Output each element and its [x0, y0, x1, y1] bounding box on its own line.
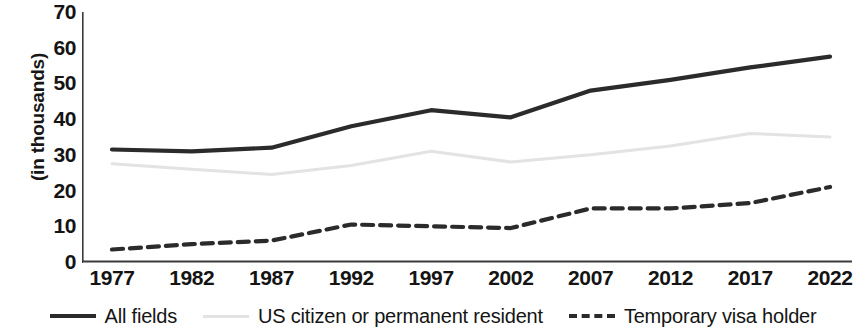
y-tick-label: 50: [30, 72, 76, 93]
x-tick-label: 2017: [705, 266, 795, 290]
x-tick-label: 2022: [785, 266, 866, 290]
line-solid-light-icon: [203, 315, 249, 318]
y-tick-label: 70: [30, 1, 76, 22]
y-axis-tick-labels: 010203040506070: [18, 0, 76, 275]
line-dashed-icon: [569, 314, 615, 318]
plot-area: [82, 12, 852, 262]
y-tick-label: 40: [30, 108, 76, 129]
x-tick-label: 1992: [306, 266, 396, 290]
legend-item-label: Temporary visa holder: [624, 305, 817, 328]
x-axis-tick-labels: 1977198219871992199720022007201220172022: [82, 266, 852, 296]
series-line: [112, 133, 830, 174]
line-solid-dark-icon: [50, 314, 96, 318]
x-tick-label: 1982: [147, 266, 237, 290]
legend-item[interactable]: Temporary visa holder: [569, 305, 817, 328]
y-tick-label: 10: [30, 215, 76, 236]
chart-legend: All fieldsUS citizen or permanent reside…: [0, 299, 866, 333]
x-tick-label: 2007: [546, 266, 636, 290]
series-line: [112, 187, 830, 250]
line-chart-figure: (in thousands) 010203040506070 197719821…: [0, 0, 866, 333]
y-tick-label: 60: [30, 37, 76, 58]
x-tick-label: 2012: [625, 266, 715, 290]
x-tick-label: 1987: [227, 266, 317, 290]
legend-item-label: All fields: [105, 305, 177, 328]
y-tick-label: 30: [30, 144, 76, 165]
y-tick-label: 20: [30, 180, 76, 201]
chart-svg: [82, 12, 852, 267]
x-tick-label: 1977: [67, 266, 157, 290]
legend-item-label: US citizen or permanent resident: [258, 305, 543, 328]
data-series-layer: [112, 57, 830, 250]
x-tick-label: 1997: [386, 266, 476, 290]
legend-item[interactable]: All fields: [50, 305, 177, 328]
legend-item[interactable]: US citizen or permanent resident: [203, 305, 543, 328]
x-tick-label: 2002: [466, 266, 556, 290]
